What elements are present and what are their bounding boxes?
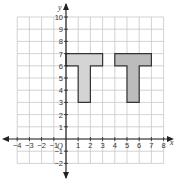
x-tick-label: 1 xyxy=(76,141,80,150)
y-tick-label: 8 xyxy=(59,37,63,46)
y-axis-label: y xyxy=(57,3,62,12)
y-tick-label: 4 xyxy=(59,86,63,95)
x-axis-label: x xyxy=(169,138,174,147)
origin-label: O xyxy=(57,142,63,151)
x-tick-label: 3 xyxy=(101,141,105,150)
x-tick-label: 2 xyxy=(88,141,92,150)
y-tick-label: 5 xyxy=(59,74,63,83)
x-tick-label: −4 xyxy=(13,141,22,150)
y-tick-label: 3 xyxy=(59,98,63,107)
y-tick-label: 9 xyxy=(59,25,63,34)
x-tick-label: 7 xyxy=(149,141,153,150)
x-tick-label: 6 xyxy=(137,141,141,150)
x-tick-label: 8 xyxy=(162,141,166,150)
y-tick-label: 2 xyxy=(59,111,63,120)
y-tick-label: 6 xyxy=(59,62,63,71)
y-tick-label: −2 xyxy=(54,159,63,168)
x-tick-label: 5 xyxy=(125,141,129,150)
x-tick-label: −3 xyxy=(25,141,34,150)
y-tick-label: 1 xyxy=(59,123,63,132)
x-tick-label: −2 xyxy=(37,141,46,150)
x-tick-label: 4 xyxy=(113,141,117,150)
y-tick-label: 7 xyxy=(59,50,63,59)
coordinate-plane: −4−3−2−11234567810987654321−1−2 x y O xyxy=(0,0,177,181)
y-tick-label: 10 xyxy=(55,13,63,22)
